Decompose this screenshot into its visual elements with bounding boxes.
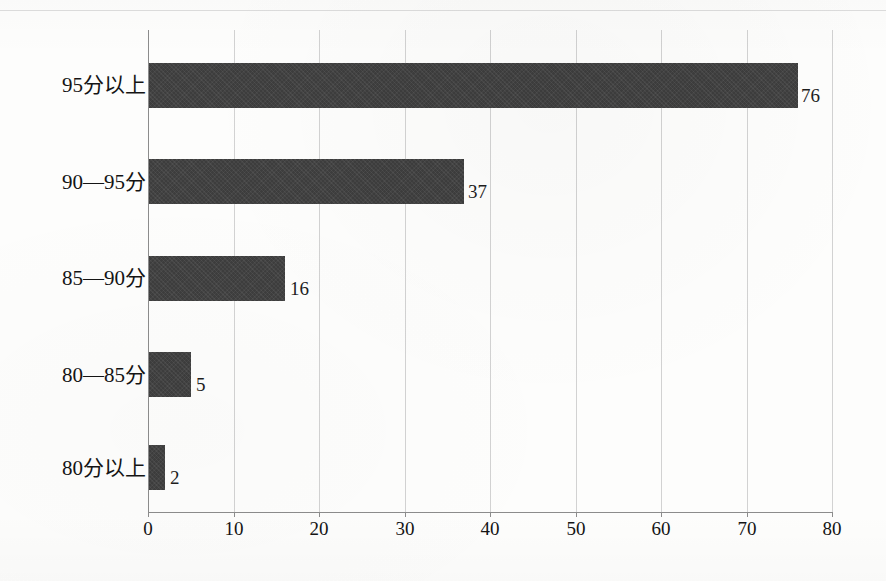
bar-85-to-90 [148,256,285,301]
tick-mark-20 [319,512,320,517]
category-label-95-and-above: 95分以上 [4,75,146,96]
x-tick-label-70: 70 [717,519,777,538]
category-label-90-to-95: 90—95分 [4,172,146,193]
x-tick-label-0: 0 [118,519,178,538]
tick-mark-30 [405,512,406,517]
scan-artifact-line [0,10,886,11]
category-label-80-to-85: 80—85分 [4,365,146,386]
tick-mark-40 [490,512,491,517]
category-label-85-to-90: 85—90分 [4,268,146,289]
gridline-80 [832,30,833,512]
x-tick-label-20: 20 [289,519,349,538]
x-tick-label-10: 10 [204,519,264,538]
tick-mark-70 [747,512,748,517]
bar-80-and-above [148,445,165,490]
tick-mark-0 [148,512,149,517]
bar-90-to-95 [148,159,464,204]
bar-value-label-80-and-above: 2 [170,468,180,487]
bar-value-label-80-to-85: 5 [196,375,206,394]
tick-mark-50 [576,512,577,517]
bar-95-and-above [148,63,798,108]
bar-80-to-85 [148,352,191,397]
tick-mark-10 [234,512,235,517]
x-tick-label-60: 60 [631,519,691,538]
bar-chart-figure: 76 37 16 5 2 95分以上 90—95分 85—90分 80—85分 … [0,0,886,581]
plot-area [148,30,832,512]
bar-value-label-95-and-above: 76 [801,86,820,105]
x-tick-label-80: 80 [802,519,862,538]
tick-mark-80 [832,512,833,517]
y-axis-line [148,30,149,513]
x-tick-label-40: 40 [460,519,520,538]
x-tick-label-30: 30 [375,519,435,538]
tick-mark-60 [661,512,662,517]
bar-value-label-85-to-90: 16 [290,279,309,298]
bar-value-label-90-to-95: 37 [468,182,487,201]
category-label-80-and-above: 80分以上 [4,458,146,479]
y-axis-category-labels: 95分以上 90—95分 85—90分 80—85分 80分以上 [0,0,146,581]
x-tick-label-50: 50 [546,519,606,538]
